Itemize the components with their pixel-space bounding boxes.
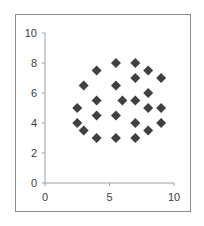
x-tick-label: 5 xyxy=(106,191,112,203)
y-tick-label: 6 xyxy=(31,87,37,99)
diamond-marker xyxy=(111,58,121,68)
diamond-marker xyxy=(130,133,140,143)
diamond-marker xyxy=(92,66,102,76)
diamond-marker xyxy=(143,126,153,136)
diamond-marker xyxy=(79,126,89,136)
tick-labels: 02468100510 xyxy=(25,27,180,203)
diamond-marker xyxy=(130,118,140,128)
diamond-marker xyxy=(143,66,153,76)
diamond-marker xyxy=(130,73,140,83)
diamond-marker xyxy=(92,111,102,121)
data-points xyxy=(72,58,166,143)
diamond-marker xyxy=(111,81,121,91)
diamond-marker xyxy=(92,133,102,143)
y-tick-label: 8 xyxy=(31,57,37,69)
diamond-marker xyxy=(156,103,166,113)
y-tick-label: 0 xyxy=(31,177,37,189)
diamond-marker xyxy=(156,73,166,83)
axes xyxy=(42,33,174,186)
x-tick-label: 0 xyxy=(42,191,48,203)
diamond-marker xyxy=(130,58,140,68)
diamond-marker xyxy=(143,88,153,98)
diamond-marker xyxy=(130,96,140,106)
y-tick-label: 4 xyxy=(31,117,37,129)
diamond-marker xyxy=(72,103,82,113)
y-tick-label: 2 xyxy=(31,147,37,159)
diamond-marker xyxy=(111,133,121,143)
diamond-marker xyxy=(117,96,127,106)
diamond-marker xyxy=(79,81,89,91)
diamond-marker xyxy=(72,118,82,128)
diamond-marker xyxy=(111,111,121,121)
diamond-marker xyxy=(143,103,153,113)
x-tick-label: 10 xyxy=(168,191,180,203)
diamond-marker xyxy=(156,118,166,128)
y-tick-label: 10 xyxy=(25,27,37,39)
diamond-marker xyxy=(92,96,102,106)
scatter-chart: 02468100510 xyxy=(0,0,204,226)
